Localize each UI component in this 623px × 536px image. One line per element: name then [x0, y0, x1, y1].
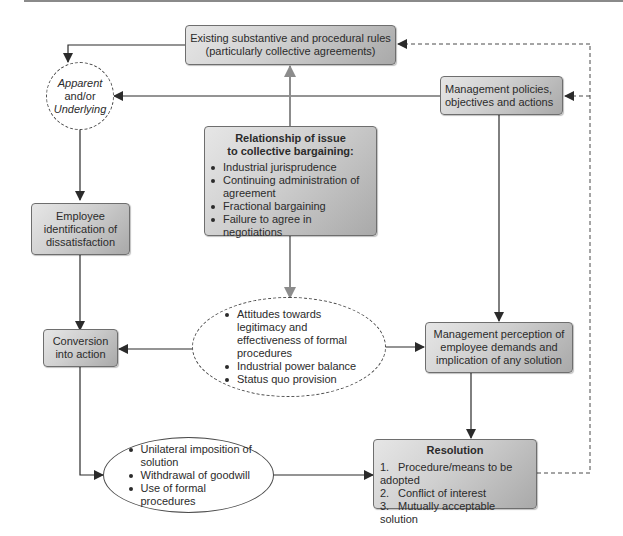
existing-rules-line1: Existing substantive and procedural rule…: [190, 32, 391, 45]
actions-item: Unilateral imposition of solution: [127, 443, 257, 469]
management-policies-line2: objectives and actions: [445, 96, 553, 109]
node-actions: Unilateral imposition of solution Withdr…: [103, 437, 274, 513]
management-perception-line1: Management perception of: [434, 328, 565, 341]
management-policies-line1: Management policies,: [445, 83, 552, 96]
management-perception-line3: implication of any solution: [436, 354, 562, 367]
node-conversion: Conversion into action: [43, 329, 118, 367]
attitudes-list: Attitudes towards legitimacy and effecti…: [223, 308, 363, 386]
node-resolution: Resolution 1.Procedure/means to be adopt…: [373, 439, 537, 509]
resolution-title: Resolution: [427, 444, 484, 457]
relationship-list: Industrial jurisprudence Continuing admi…: [209, 161, 372, 239]
node-management-perception: Management perception of employee demand…: [425, 322, 573, 373]
conversion-line2: into action: [55, 348, 105, 361]
node-apparent-underlying: Apparent and/or Underlying: [46, 62, 114, 130]
relationship-title-line2: to collective bargaining:: [227, 145, 354, 158]
employee-identification-line3: dissatisfaction: [46, 236, 115, 249]
resolution-item: 2.Conflict of interest: [380, 487, 530, 500]
attitudes-item: Attitudes towards legitimacy and effecti…: [223, 308, 363, 360]
attitudes-item: Status quo provision: [223, 373, 363, 386]
arrow-rules-to-apparent: [68, 45, 185, 62]
existing-rules-line2: (particularly collective agreements): [206, 45, 376, 58]
node-attitudes: Attitudes towards legitimacy and effecti…: [192, 297, 386, 397]
employee-identification-line2: identification of: [44, 223, 117, 236]
relationship-title-line1: Relationship of issue: [235, 132, 346, 145]
employee-identification-line1: Employee: [56, 210, 105, 223]
conversion-line1: Conversion: [53, 335, 109, 348]
resolution-item: 1.Procedure/means to be adopted: [380, 461, 530, 487]
and-or-label: and/or: [54, 90, 107, 103]
node-relationship: Relationship of issue to collective barg…: [204, 126, 377, 236]
node-existing-rules: Existing substantive and procedural rule…: [185, 25, 396, 65]
apparent-label: Apparent: [54, 77, 107, 90]
relationship-item: Continuing administration of agreement: [209, 174, 372, 200]
node-employee-identification: Employee identification of dissatisfacti…: [31, 203, 130, 255]
resolution-list: 1.Procedure/means to be adopted 2.Confli…: [380, 461, 530, 526]
relationship-item: Fractional bargaining: [209, 200, 372, 213]
actions-item: Use of formal procedures: [127, 482, 257, 508]
relationship-item: Industrial jurisprudence: [209, 161, 372, 174]
management-perception-line2: employee demands and: [440, 341, 557, 354]
resolution-item: 3.Mutually acceptable solution: [380, 500, 530, 526]
relationship-item: Failure to agree in negotiations: [209, 213, 372, 239]
attitudes-item: Industrial power balance: [223, 360, 363, 373]
node-management-policies: Management policies, objectives and acti…: [440, 76, 563, 115]
actions-list: Unilateral imposition of solution Withdr…: [127, 443, 257, 508]
arrow-conversion-to-actions: [80, 367, 103, 475]
actions-item: Withdrawal of goodwill: [127, 469, 257, 482]
underlying-label: Underlying: [54, 103, 107, 116]
